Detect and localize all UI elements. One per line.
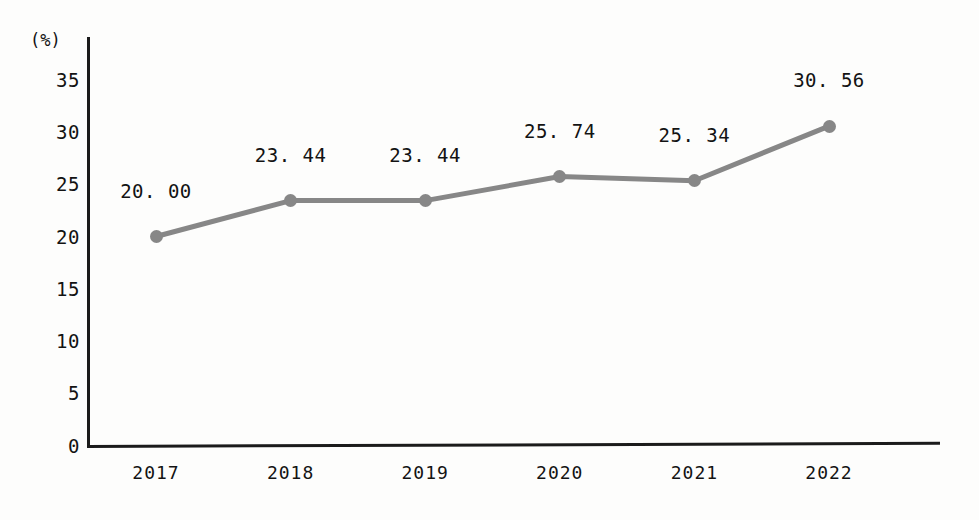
data-point-marker[interactable] — [553, 170, 566, 183]
y-tick-label: 35 — [34, 69, 80, 91]
x-tick-label: 2021 — [634, 462, 754, 483]
data-point-marker[interactable] — [823, 120, 836, 133]
data-point-label: 23. 44 — [345, 144, 505, 166]
chart-page: (%) 05101520253035 20. 00201723. 4420182… — [0, 0, 979, 520]
y-tick-label: 10 — [34, 330, 80, 352]
y-tick-label: 30 — [34, 121, 80, 143]
x-axis-line — [87, 442, 940, 448]
x-tick-label: 2018 — [231, 462, 351, 483]
y-tick-label: 20 — [34, 226, 80, 248]
data-point-marker[interactable] — [688, 174, 701, 187]
y-tick-label: 15 — [34, 278, 80, 300]
data-point-label: 20. 00 — [76, 180, 236, 202]
y-axis-ticks: 05101520253035 — [22, 0, 80, 520]
line-chart: (%) 05101520253035 20. 00201723. 4420182… — [0, 0, 979, 520]
data-point-label: 30. 56 — [749, 69, 909, 91]
x-tick-label: 2022 — [769, 462, 889, 483]
y-tick-label: 5 — [34, 382, 80, 404]
x-tick-label: 2017 — [96, 462, 216, 483]
data-point-label: 25. 34 — [614, 124, 774, 146]
data-point-marker[interactable] — [284, 194, 297, 207]
y-axis-line — [87, 37, 90, 448]
data-point-marker[interactable] — [419, 194, 432, 207]
data-point-marker[interactable] — [150, 230, 163, 243]
y-tick-label: 25 — [34, 173, 80, 195]
y-tick-label: 0 — [34, 435, 80, 457]
x-tick-label: 2019 — [365, 462, 485, 483]
x-tick-label: 2020 — [500, 462, 620, 483]
